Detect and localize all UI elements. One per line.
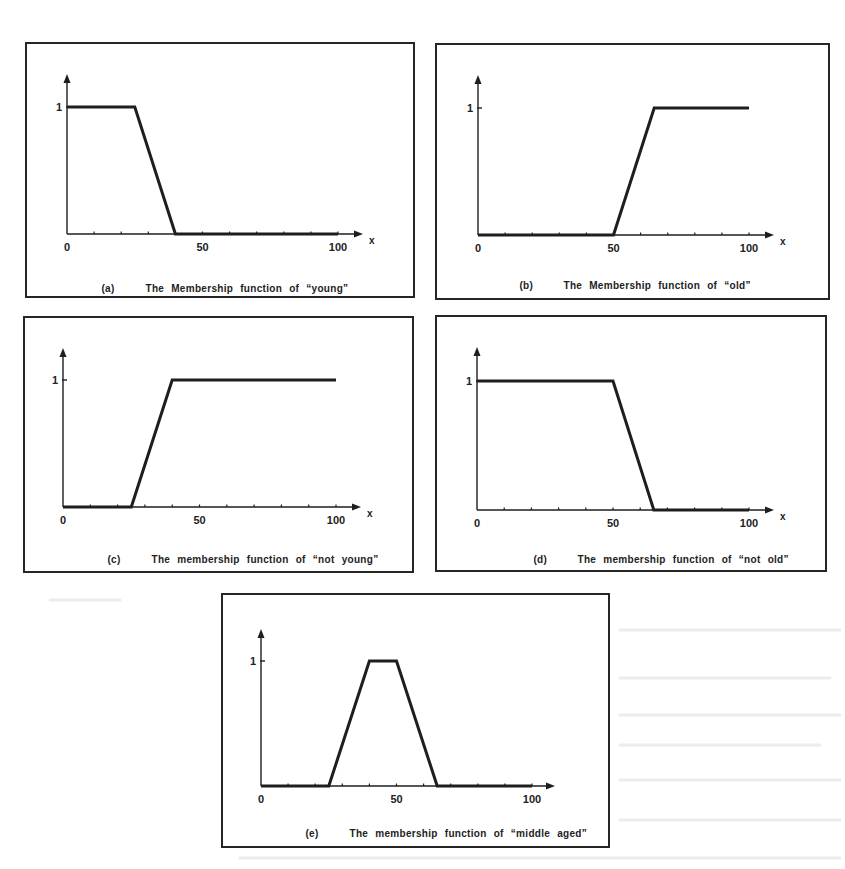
chart-panel-a: 0501001x (a)The Membership function of “… — [25, 42, 415, 298]
panel-letter: (e) — [305, 828, 349, 839]
chart-panel-e: 0501001 (e)The membership function of “m… — [221, 593, 610, 848]
tick-labels: 0501001x — [466, 375, 786, 529]
y-axis-arrow-icon — [474, 347, 481, 356]
panel-caption: (b)The Membership function of “old” — [477, 269, 751, 302]
tick-labels: 0501001x — [52, 374, 373, 526]
x-axis-label: x — [780, 236, 786, 247]
x-tick-label: 100 — [740, 517, 758, 529]
y-tick-label: 1 — [467, 102, 473, 114]
panel-caption: (d)The membership function of “not old” — [491, 543, 789, 576]
x-tick-label: 0 — [64, 241, 70, 253]
panel-letter: (d) — [533, 554, 577, 565]
x-tick-label: 50 — [390, 793, 402, 805]
panel-letter: (a) — [101, 283, 145, 294]
x-tick-label: 100 — [740, 242, 758, 254]
x-axis-arrow-icon — [354, 231, 363, 238]
axes — [60, 348, 362, 511]
x-axis-arrow-icon — [765, 232, 774, 239]
x-tick-label: 50 — [607, 242, 619, 254]
membership-curve-middle-aged — [261, 661, 532, 786]
chart-panel-c: 0501001x (c)The membership function of “… — [23, 316, 414, 573]
axes — [258, 629, 556, 790]
chart-plot-area: 0501001x — [27, 44, 417, 300]
tick-labels: 0501001 — [250, 655, 541, 805]
x-tick-label: 100 — [523, 793, 541, 805]
chart-plot-area: 0501001x — [437, 317, 829, 574]
x-tick-label: 50 — [193, 514, 205, 526]
y-axis-arrow-icon — [258, 629, 265, 638]
x-tick-label: 50 — [196, 241, 208, 253]
y-axis-arrow-icon — [475, 75, 482, 84]
tick-labels: 0501001x — [467, 102, 786, 254]
axes — [64, 74, 364, 238]
panel-letter: (c) — [107, 554, 151, 565]
x-axis-arrow-icon — [352, 504, 361, 511]
membership-curve-not-young — [63, 380, 336, 507]
x-axis-arrow-icon — [546, 783, 555, 790]
x-axis-label: x — [780, 511, 786, 522]
x-tick-label: 100 — [329, 241, 347, 253]
caption-text: The membership function of “middle aged” — [349, 828, 587, 839]
x-tick-label: 0 — [60, 514, 66, 526]
caption-text: The Membership function of “old” — [563, 280, 750, 291]
panel-caption: (a)The Membership function of “young” — [59, 272, 348, 305]
x-axis-label: x — [367, 508, 373, 519]
axes — [474, 347, 775, 514]
x-axis-label: x — [369, 235, 375, 246]
y-tick-label: 1 — [466, 375, 472, 387]
chart-plot-area: 0501001x — [25, 318, 416, 575]
y-tick-label: 1 — [250, 655, 256, 667]
panel-caption: (c)The membership function of “not young… — [65, 543, 378, 576]
y-axis-arrow-icon — [64, 74, 71, 83]
x-tick-label: 0 — [474, 517, 480, 529]
caption-text: The Membership function of “young” — [145, 283, 348, 294]
chart-panel-d: 0501001x (d)The membership function of “… — [435, 315, 827, 572]
y-tick-label: 1 — [56, 101, 62, 113]
x-tick-label: 0 — [258, 793, 264, 805]
x-tick-label: 50 — [607, 517, 619, 529]
caption-text: The membership function of “not old” — [577, 554, 788, 565]
x-axis-arrow-icon — [765, 507, 774, 514]
tick-labels: 0501001x — [56, 101, 375, 253]
panel-caption: (e)The membership function of “middle ag… — [263, 817, 587, 850]
y-tick-label: 1 — [52, 374, 58, 386]
x-tick-label: 100 — [327, 514, 345, 526]
axes — [475, 75, 775, 239]
y-axis-arrow-icon — [60, 348, 67, 357]
chart-panel-b: 0501001x (b)The Membership function of “… — [435, 43, 830, 300]
chart-plot-area: 0501001x — [437, 45, 832, 302]
caption-text: The membership function of “not young” — [151, 554, 378, 565]
x-tick-label: 0 — [475, 242, 481, 254]
panel-letter: (b) — [519, 280, 563, 291]
membership-curve-not-old — [477, 381, 749, 510]
membership-curve-young — [67, 107, 338, 234]
membership-curve-old — [478, 108, 749, 235]
chart-plot-area: 0501001 — [223, 595, 612, 850]
